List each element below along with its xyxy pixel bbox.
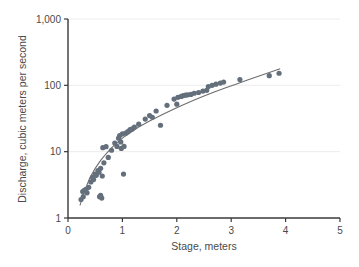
x-axis-title: Stage, meters [171,240,236,252]
data-point [150,115,155,120]
data-point [98,166,103,171]
rating-curve [80,69,280,206]
data-point [237,77,242,82]
y-tick-label-100: 100 [44,80,61,91]
fit-curve-path [80,69,280,206]
gridlines [68,19,340,152]
data-point [143,116,148,121]
stage-discharge-chart: 1101001,000 012345 Stage, meters Dischar… [0,0,359,267]
data-point [81,194,86,199]
data-point [106,155,111,160]
data-point [121,171,126,176]
axis-lines [68,19,340,218]
y-tick-label-1: 1 [55,213,61,224]
data-point [100,173,105,178]
data-point [121,144,126,149]
data-point [221,79,226,84]
x-tick-label-4: 4 [283,225,289,236]
data-point [213,82,218,87]
y-tick-label-10: 10 [50,146,62,157]
data-point [158,123,163,128]
data-point [99,195,104,200]
data-point [267,73,272,78]
data-point [109,148,114,153]
data-point [136,122,141,127]
y-tick-label-1000: 1,000 [36,14,61,25]
data-point [276,71,281,76]
x-tick-label-5: 5 [337,225,343,236]
x-tick-label-3: 3 [228,225,234,236]
y-axis-title: Discharge, cubic meters per second [16,35,28,203]
data-point [118,139,123,144]
data-point [164,103,169,108]
data-point [132,124,137,129]
data-point-series [78,71,281,202]
chart-canvas: 1101001,000 012345 Stage, meters Dischar… [0,0,359,267]
x-tick-label-0: 0 [65,225,71,236]
data-point [154,108,159,113]
data-point [101,160,106,165]
data-point [174,102,179,107]
x-tick-label-2: 2 [174,225,180,236]
x-tick-label-1: 1 [120,225,126,236]
x-axis-ticks: 012345 [65,218,343,236]
y-axis-ticks: 1101001,000 [36,14,68,224]
data-point [84,190,89,195]
data-point [192,91,197,96]
data-point [86,185,91,190]
data-point [103,144,108,149]
